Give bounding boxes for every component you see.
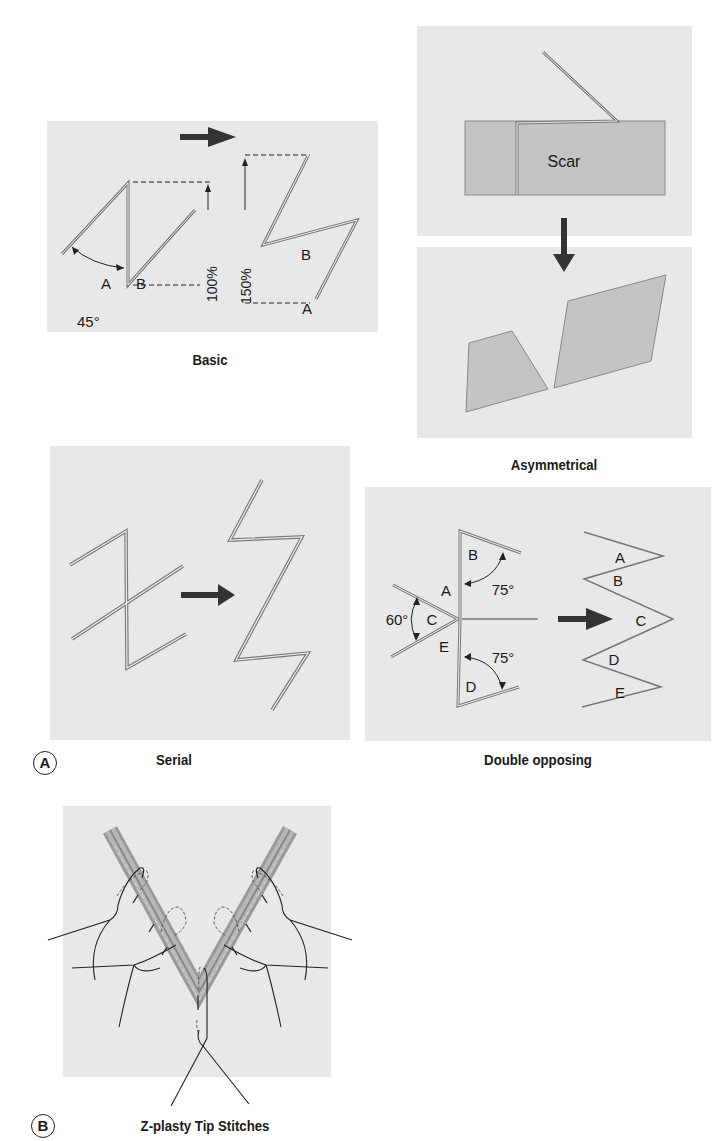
tip-stitches-caption: Z-plasty Tip Stitches (117, 1117, 293, 1134)
tip-stitches-diagram (0, 0, 724, 1141)
panel-label-b: B (31, 1114, 55, 1138)
